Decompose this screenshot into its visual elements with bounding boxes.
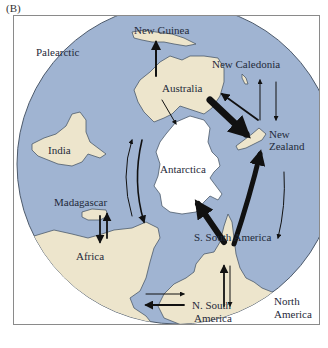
label-s-south-america: S. South America xyxy=(194,231,271,243)
map-frame: Palearctic New Guinea New Caledonia Aust… xyxy=(13,15,320,325)
label-n-south-america-line2: America xyxy=(194,312,232,324)
label-madagascar: Madagascar xyxy=(54,196,107,208)
label-north-america-line1: North xyxy=(274,295,300,307)
label-new-zealand-line1: New xyxy=(269,128,290,140)
label-n-south-america-line1: N. South xyxy=(192,299,232,311)
biogeography-map: Palearctic New Guinea New Caledonia Aust… xyxy=(14,16,320,325)
label-india: India xyxy=(48,144,71,156)
landmass-madagascar xyxy=(82,209,108,220)
label-new-caledonia: New Caledonia xyxy=(212,58,280,70)
panel-label: (B) xyxy=(6,2,21,14)
label-antarctica: Antarctica xyxy=(160,163,206,175)
label-new-guinea: New Guinea xyxy=(134,24,189,36)
label-palearctic: Palearctic xyxy=(36,46,79,58)
label-new-zealand-line2: Zealand xyxy=(269,140,305,152)
label-north-america-line2: America xyxy=(274,308,312,320)
label-australia: Australia xyxy=(162,82,202,94)
label-africa: Africa xyxy=(76,250,104,262)
